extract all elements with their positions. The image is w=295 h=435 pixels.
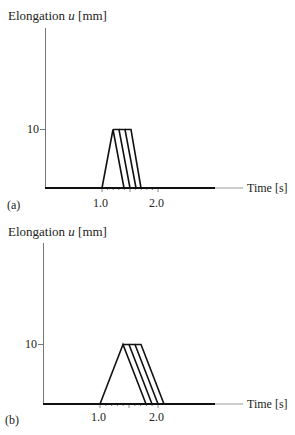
panel-b-axes [38,243,243,408]
panel-a-curves [102,130,141,189]
panel-a-axes [40,28,243,192]
panel-b-curves [100,345,164,405]
plot-canvas [0,0,295,435]
